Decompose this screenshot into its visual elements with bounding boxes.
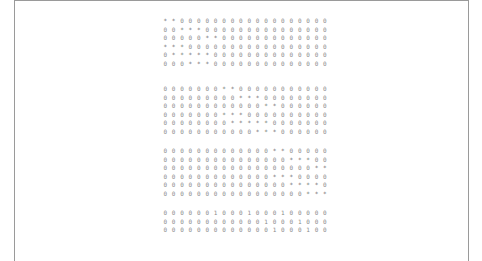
grid-cell: 0 [279,85,287,94]
grid-cell: * [220,111,228,120]
grid-cell: 0 [186,17,194,26]
grid-cell: 0 [287,26,295,35]
grid-cell: 0 [321,17,329,26]
grid-cell: * [237,94,245,103]
grid-cell: 0 [279,26,287,35]
grid-cell: 0 [253,147,261,156]
grid-cell: 0 [312,111,320,120]
grid-cell: 0 [287,147,295,156]
grid-cell: 0 [321,60,329,69]
grid-cell: 0 [245,147,253,156]
grid-cell: 0 [296,226,304,235]
grid-cell: 0 [270,164,278,173]
grid-cell: 0 [186,218,194,227]
grid-cell: 0 [195,85,203,94]
grid-cell: 0 [321,43,329,52]
grid-cell: 0 [237,209,245,218]
grid-cell: 1 [211,209,219,218]
grid-cell: 0 [287,34,295,43]
grid-cell: 0 [195,17,203,26]
grid-cell: 0 [220,226,228,235]
grid-cell: 0 [161,209,169,218]
grid-cell: 0 [321,119,329,128]
grid-cell: 0 [220,190,228,199]
grid-cell: 0 [169,60,177,69]
grid-cell: 0 [211,94,219,103]
grid-cell: 0 [321,34,329,43]
grid-cell: * [262,119,270,128]
grid-cell: 0 [220,173,228,182]
grid-cell: 0 [253,226,261,235]
grid-cell: 0 [296,190,304,199]
grid-cell: 0 [169,85,177,94]
grid-row: 000000000000000***00 [161,156,329,165]
grid-cell: 0 [296,26,304,35]
grid-cell: 0 [253,218,261,227]
grid-cell: 0 [296,128,304,137]
grid-cell: 0 [253,17,261,26]
grid-cell: 0 [253,26,261,35]
grid-cell: 0 [304,111,312,120]
document-page: **00000000000000000000***000000000000000… [14,0,469,261]
grid-cell: 0 [304,34,312,43]
grid-cell: 0 [228,128,236,137]
grid-cell: 0 [211,60,219,69]
grid-cell: 0 [237,218,245,227]
grid-cell: 0 [195,34,203,43]
grid-cell: 0 [304,17,312,26]
grid-cell: 0 [220,34,228,43]
grid-cell: * [296,181,304,190]
grid-cell: 0 [220,94,228,103]
grid-cell: 0 [186,164,194,173]
grid-cell: 0 [279,43,287,52]
grid-cell: 0 [312,26,320,35]
grid-cell: * [237,111,245,120]
grid-cell: 0 [279,34,287,43]
grid-cell: 0 [203,85,211,94]
grid-cell: 0 [245,85,253,94]
grid-cell: 0 [203,226,211,235]
grid-cell: 0 [253,156,261,165]
grid-cell: 0 [178,128,186,137]
grid-cell: 0 [228,102,236,111]
grid-cell: 0 [195,94,203,103]
grid-cell: * [287,156,295,165]
grid-cell: 0 [178,164,186,173]
grid-cell: 0 [237,181,245,190]
grid-cell: * [211,34,219,43]
grid-cell: * [304,190,312,199]
grid-cell: 0 [296,43,304,52]
grid-cell: 0 [178,190,186,199]
grid-cell: 0 [262,43,270,52]
grid-cell: 0 [262,17,270,26]
grid-cell: 0 [211,181,219,190]
grid-cell: * [262,128,270,137]
grid-cell: 0 [270,43,278,52]
grid-cell: 0 [270,209,278,218]
grid-cell: 0 [296,85,304,94]
grid-cell: 0 [169,226,177,235]
grid-cell: * [169,17,177,26]
grid-cell: 0 [186,85,194,94]
grid-cell: 0 [312,85,320,94]
grid-cell: 0 [228,34,236,43]
grid-cell: 0 [279,156,287,165]
grid-cell: 0 [279,17,287,26]
grid-cell: 0 [321,111,329,120]
grid-cell: 0 [186,34,194,43]
grid-cell: 0 [195,147,203,156]
grid-cell: 0 [312,226,320,235]
grid-cell: 0 [304,60,312,69]
grid-cell: * [287,181,295,190]
grid-cell: 0 [220,119,228,128]
grid-cell: * [253,119,261,128]
grid-cell: 0 [186,181,194,190]
grid-cell: 0 [312,102,320,111]
grid-row: 00000000000010001000 [161,218,329,227]
grid-cell: 0 [169,173,177,182]
grid-cell: * [287,173,295,182]
grid-cell: 0 [161,111,169,120]
grid-cell: 0 [304,51,312,60]
grid-cell: 0 [178,119,186,128]
grid-cell: 0 [186,173,194,182]
